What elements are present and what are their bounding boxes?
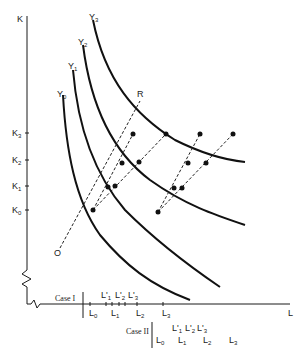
svg-text:L'3: L'3 <box>128 290 139 301</box>
case1-label: Case I <box>55 294 76 303</box>
svg-text:L'2: L'2 <box>185 323 196 334</box>
origin-label: O <box>54 248 61 258</box>
svg-text:Y0: Y0 <box>57 89 67 100</box>
k-tick-labels: K3 K2 K1 K0 <box>12 128 22 216</box>
svg-text:K2: K2 <box>12 155 22 166</box>
svg-text:K0: K0 <box>12 205 22 216</box>
isoquant-y3 <box>93 20 245 162</box>
svg-text:L'2: L'2 <box>115 290 126 301</box>
case1-lower-labels: L0 L1 L2 L3 <box>89 308 171 319</box>
svg-text:L3: L3 <box>162 308 171 319</box>
svg-text:Y2: Y2 <box>78 37 88 48</box>
svg-text:L2: L2 <box>136 308 145 319</box>
svg-text:L3: L3 <box>229 335 238 346</box>
svg-text:L'1: L'1 <box>172 323 183 334</box>
case1-upper-labels: L'1 L'2 L'3 <box>101 290 139 301</box>
svg-text:L1: L1 <box>111 308 120 319</box>
svg-text:Y3: Y3 <box>89 12 99 23</box>
case2-lower-labels: L0 L1 L2 L3 <box>156 335 238 346</box>
svg-text:L1: L1 <box>178 335 187 346</box>
svg-text:L2: L2 <box>203 335 212 346</box>
svg-text:Y1: Y1 <box>68 61 78 72</box>
svg-text:K3: K3 <box>12 128 22 139</box>
ray-label: R <box>137 89 144 99</box>
case2-upper-labels: L'1 L'2 L'3 <box>172 323 208 334</box>
svg-text:K1: K1 <box>12 181 22 192</box>
isoquant-diagram: K L K3 K2 K1 K0 Y0 Y1 Y2 Y3 <box>0 0 308 361</box>
svg-text:L'1: L'1 <box>101 290 112 301</box>
svg-text:L0: L0 <box>89 308 98 319</box>
isoquant-curves <box>63 20 245 300</box>
case2-label: Case II <box>126 327 149 336</box>
l-axis-label: L <box>288 308 293 318</box>
expansion-paths <box>60 101 233 248</box>
svg-text:L'3: L'3 <box>197 323 208 334</box>
k-axis-label: K <box>17 14 23 24</box>
svg-text:L0: L0 <box>156 335 165 346</box>
isoquant-labels: Y0 Y1 Y2 Y3 <box>57 12 99 100</box>
